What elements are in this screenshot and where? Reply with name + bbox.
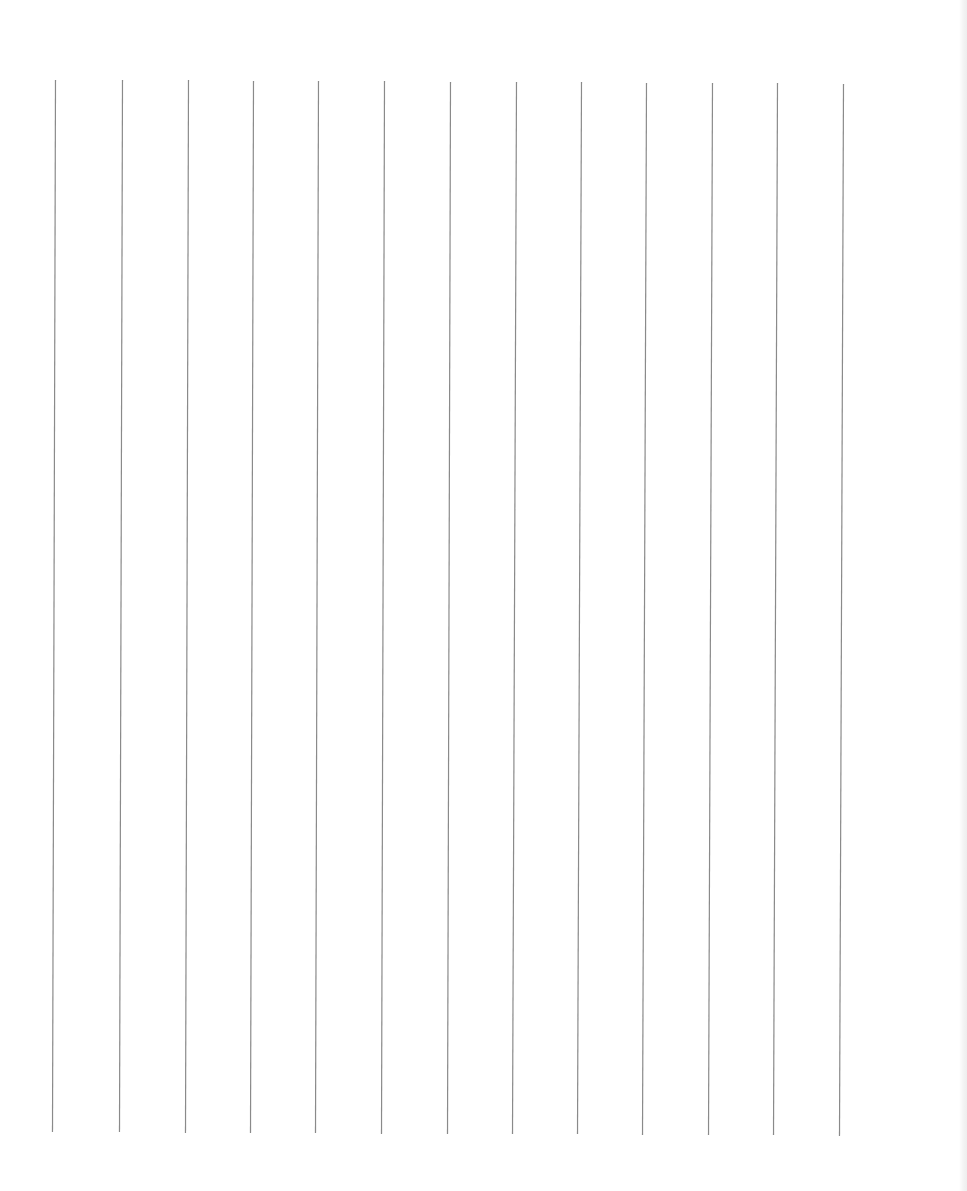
rule-line-12	[774, 83, 778, 1135]
rule-line-9	[578, 82, 582, 1134]
rule-line-13	[840, 84, 844, 1136]
rule-line-8	[513, 82, 517, 1134]
rule-line-2	[120, 80, 123, 1132]
rule-line-7	[448, 82, 451, 1134]
rule-line-3	[186, 80, 189, 1133]
ruled-page	[0, 0, 967, 1191]
vertical-rule-lines	[0, 0, 967, 1191]
rule-line-4	[251, 81, 254, 1133]
page-edge-shade	[959, 0, 967, 1191]
rule-line-11	[709, 83, 713, 1135]
rule-line-1	[53, 80, 56, 1132]
rule-line-5	[316, 81, 319, 1133]
rule-line-10	[643, 83, 647, 1135]
rule-line-6	[382, 81, 385, 1134]
